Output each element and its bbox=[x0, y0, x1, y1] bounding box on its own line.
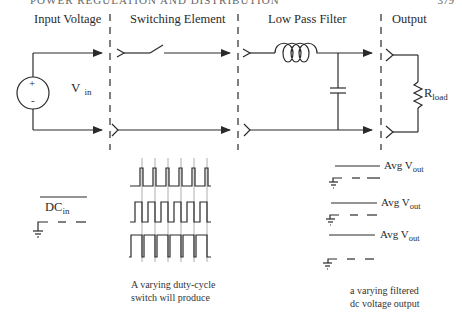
inductor-icon bbox=[243, 43, 372, 62]
filtered-output-waveforms bbox=[323, 166, 380, 269]
resistor-icon bbox=[386, 49, 422, 138]
pwm-waveforms bbox=[129, 158, 211, 262]
avg-vout-label-1: Avg Vout bbox=[384, 159, 424, 171]
dc-in-label: DCin bbox=[45, 200, 69, 215]
waveform-mid-duty bbox=[130, 202, 211, 222]
ground-icon bbox=[329, 182, 338, 188]
output-caption: a varying filtered dc voltage output bbox=[350, 284, 419, 310]
ground-icon bbox=[33, 231, 43, 237]
ground-icon bbox=[326, 219, 335, 225]
rload-label: Rload bbox=[424, 86, 448, 101]
switch-caption: A varying duty-cycle switch will produce bbox=[131, 278, 215, 304]
avg-vout-label-3: Avg Vout bbox=[380, 228, 420, 240]
source-minus-sign: - bbox=[31, 94, 35, 106]
waveform-high-duty bbox=[129, 235, 211, 257]
avg-vout-label-2: Avg Vout bbox=[381, 196, 421, 208]
vin-label: Vin bbox=[71, 80, 91, 96]
source-plus-sign: + bbox=[29, 77, 35, 89]
capacitor-icon bbox=[330, 53, 346, 130]
switch-icon bbox=[112, 45, 230, 136]
ground-icon bbox=[323, 263, 332, 269]
